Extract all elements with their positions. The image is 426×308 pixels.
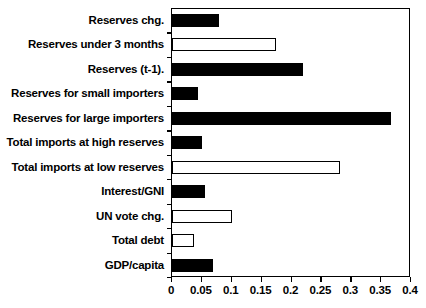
bar-row (172, 107, 409, 131)
category-label: Reserves for large importers (13, 106, 164, 130)
category-label: GDP/capita (105, 253, 164, 277)
bars-layer (172, 9, 409, 276)
x-axis-tick (380, 277, 381, 282)
x-axis-tick-label: 0.3 (343, 284, 358, 296)
category-label: Reserves under 3 months (28, 32, 164, 56)
bar (172, 185, 205, 198)
bar (172, 210, 232, 223)
bar-row (172, 156, 409, 180)
plot-area (171, 8, 410, 277)
bar-row (172, 229, 409, 253)
bar-row (172, 205, 409, 229)
bar (172, 234, 194, 247)
x-axis-tick (231, 277, 232, 282)
bar (172, 259, 213, 272)
x-axis-tick (261, 277, 262, 282)
category-label: Reserves for small importers (11, 81, 164, 105)
bar (172, 38, 276, 51)
x-axis-tick-label: 0.05 (190, 284, 212, 296)
category-label: Interest/GNI (101, 179, 164, 203)
bar-row (172, 9, 409, 33)
category-label-column: Reserves chg.Reserves under 3 monthsRese… (0, 8, 168, 277)
bar-row (172, 82, 409, 106)
x-axis-tick-label: 0.4 (402, 284, 417, 296)
bar-chart: Reserves chg.Reserves under 3 monthsRese… (0, 0, 426, 308)
x-axis-tick (201, 277, 202, 282)
x-axis-tick (410, 277, 411, 282)
category-label: Total imports at high reserves (7, 130, 164, 154)
bar-row (172, 58, 409, 82)
x-axis-tick-labels: 00.050.10.150.20.250.30.350.4 (171, 284, 410, 304)
category-label: Reserves (t-1). (88, 57, 164, 81)
x-axis-tick-label: 0.1 (223, 284, 238, 296)
x-axis-tick (320, 277, 321, 282)
x-axis-tick-label: 0.2 (283, 284, 298, 296)
bar (172, 63, 303, 76)
x-axis-tick-label: 0.25 (310, 284, 332, 296)
x-axis-tick-label: 0 (168, 284, 174, 296)
category-label: Total debt (112, 228, 164, 252)
bar (172, 112, 391, 125)
bar-row (172, 33, 409, 57)
x-axis-tick (171, 277, 172, 282)
bar (172, 161, 340, 174)
bar-row (172, 180, 409, 204)
bar (172, 87, 198, 100)
bar-row (172, 254, 409, 278)
category-label: Total imports at low reserves (12, 155, 164, 179)
x-axis-tick (350, 277, 351, 282)
bar (172, 14, 219, 27)
bar (172, 136, 202, 149)
x-axis-tick-label: 0.15 (250, 284, 272, 296)
x-axis-tick-label: 0.35 (369, 284, 391, 296)
category-label: Reserves chg. (89, 8, 164, 32)
category-label: UN vote chg. (96, 204, 164, 228)
x-axis-tick (291, 277, 292, 282)
bar-row (172, 131, 409, 155)
